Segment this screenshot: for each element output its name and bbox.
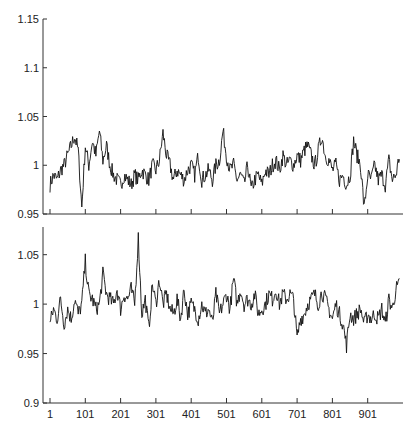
series-line-top — [50, 128, 400, 207]
x-tick-label: 501 — [217, 408, 235, 420]
x-tick-label: 601 — [253, 408, 271, 420]
top-panel: 0.9511.051.11.15 — [18, 13, 403, 220]
y-tick-label: 0.95 — [18, 348, 39, 360]
y-tick-label: 1.05 — [18, 249, 39, 261]
y-tick-label: 1.05 — [18, 111, 39, 123]
x-tick-label: 801 — [323, 408, 341, 420]
y-tick-label: 1 — [33, 159, 39, 171]
y-tick-label: 0.95 — [18, 208, 39, 220]
bottom-panel: 0.90.9511.051101201301401501601701801901 — [18, 227, 403, 420]
chart-figure: 0.9511.051.11.15 0.90.9511.0511012013014… — [0, 0, 412, 427]
x-tick-label: 201 — [111, 408, 129, 420]
x-tick-label: 301 — [147, 408, 165, 420]
y-tick-label: 0.9 — [24, 397, 39, 409]
x-tick-label: 901 — [359, 408, 377, 420]
y-tick-label: 1.1 — [24, 62, 39, 74]
y-tick-label: 1.15 — [18, 13, 39, 25]
x-tick-label: 701 — [288, 408, 306, 420]
x-tick-label: 101 — [76, 408, 94, 420]
series-line-bottom — [50, 233, 400, 354]
x-tick-label: 401 — [182, 408, 200, 420]
y-tick-label: 1 — [33, 298, 39, 310]
x-tick-label: 1 — [47, 408, 53, 420]
